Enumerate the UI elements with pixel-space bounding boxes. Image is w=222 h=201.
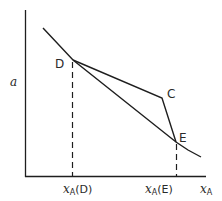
y-axis-label: a xyxy=(10,75,17,89)
x-axis-label: xA xyxy=(200,182,213,197)
point-label-c: C xyxy=(167,87,175,101)
diagram: D C E a xA(D) xA(E) xA xyxy=(0,0,222,201)
point-label-d: D xyxy=(55,57,64,71)
curve-outer xyxy=(43,28,201,157)
svg-text:xA(D): xA(D) xyxy=(63,182,92,197)
tick-label-xa-d: xA(D) xyxy=(63,182,92,197)
svg-text:xA: xA xyxy=(200,182,213,197)
svg-text:xA(E): xA(E) xyxy=(145,182,173,197)
tick-label-xa-e: xA(E) xyxy=(145,182,173,197)
point-label-e: E xyxy=(179,131,187,145)
